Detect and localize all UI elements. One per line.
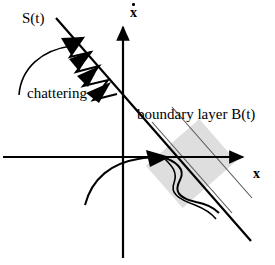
chattering-label: chattering xyxy=(27,86,87,101)
y-axis-label: x xyxy=(130,6,137,20)
boundary-layer-label: boundary layer B(t) xyxy=(137,107,255,122)
sliding-surface-line xyxy=(56,18,251,241)
sliding-mode-phase-plane-figure: S(t) chattering boundary layer B(t) x x xyxy=(0,0,275,265)
x-axis-label: x xyxy=(253,167,260,181)
sliding-surface-label: S(t) xyxy=(22,11,45,26)
boundary-layer-band xyxy=(146,119,236,208)
y-axis-label-text: x xyxy=(130,6,137,20)
diagram-canvas xyxy=(0,0,275,265)
